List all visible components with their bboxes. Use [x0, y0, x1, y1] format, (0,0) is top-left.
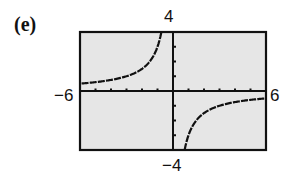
graph-plot: [0, 0, 290, 182]
